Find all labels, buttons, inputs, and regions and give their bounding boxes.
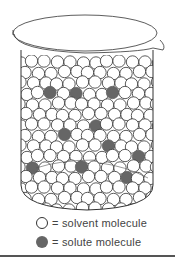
solvent-molecule [14, 139, 26, 151]
solvent-molecule [127, 97, 139, 109]
solvent-molecule [138, 204, 150, 216]
solvent-molecule [115, 203, 127, 215]
solute-molecule [106, 86, 118, 98]
solvent-molecule [38, 181, 50, 193]
solvent-molecule [150, 98, 162, 110]
solvent-molecule [38, 55, 50, 67]
legend-solute: = solute molecule [36, 236, 141, 248]
solvent-molecule [89, 202, 101, 214]
solvent-molecule [76, 202, 88, 214]
solvent-molecule [31, 149, 43, 161]
solvent-molecule [119, 86, 131, 98]
solvent-molecule [52, 160, 64, 172]
solvent-molecule [119, 149, 131, 161]
solvent-molecule [25, 181, 37, 193]
legend-solvent-label: = solvent molecule [52, 217, 147, 229]
solvent-molecule [25, 118, 37, 130]
solvent-molecule [31, 86, 43, 98]
solvent-molecule [152, 183, 164, 195]
solvent-molecule [100, 118, 112, 130]
open-circle-icon [36, 217, 48, 229]
solvent-molecule [58, 65, 70, 77]
solvent-molecule [106, 149, 118, 161]
legend-solvent: = solvent molecule [36, 217, 147, 229]
filled-circle-icon [36, 236, 48, 248]
divider [0, 255, 175, 257]
solvent-molecule [82, 107, 94, 119]
solvent-molecule [150, 161, 162, 173]
solvent-molecule [82, 170, 94, 182]
solvent-molecule [146, 65, 158, 77]
solvent-molecule [58, 191, 70, 203]
solvent-molecule [113, 55, 125, 67]
solvent-molecule [113, 118, 125, 130]
solvent-molecule [152, 57, 164, 69]
solute-molecule [44, 86, 56, 98]
solute-molecule [58, 128, 70, 140]
solvent-molecule [44, 149, 56, 161]
solvent-molecule [38, 118, 50, 130]
legend-solute-label: = solute molecule [52, 236, 141, 248]
solvent-molecule [27, 203, 39, 215]
solvent-molecule [14, 202, 26, 214]
solvent-molecule [76, 76, 88, 88]
solvent-molecule [89, 139, 101, 151]
solvent-molecule [146, 128, 158, 140]
solvent-molecule [133, 128, 145, 140]
solvent-molecule [133, 65, 145, 77]
beaker-diagram [0, 0, 175, 220]
solvent-molecule [151, 202, 163, 214]
molecule-field [13, 55, 165, 216]
solvent-molecule [14, 76, 26, 88]
solvent-molecule [146, 191, 158, 203]
solvent-molecule [100, 55, 112, 67]
solvent-molecule [89, 76, 101, 88]
solvent-molecule [50, 204, 62, 216]
solvent-molecule [76, 139, 88, 151]
beaker-rim [13, 15, 164, 53]
solvent-molecule [25, 55, 37, 67]
solvent-molecule [52, 97, 64, 109]
solvent-molecule [127, 160, 139, 172]
solvent-molecule [63, 204, 75, 216]
solvent-molecule [113, 181, 125, 193]
solvent-molecule [100, 181, 112, 193]
solvent-molecule [152, 120, 164, 132]
